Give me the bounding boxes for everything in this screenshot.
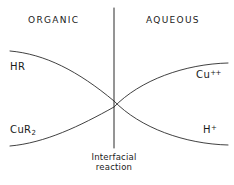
interfacial-reaction-diagram: ORGANIC AQUEOUS HR CuR2 Cu++ H+ Interfac… (0, 0, 234, 185)
curve-hplus (114, 101, 228, 145)
species-label-cu2plus: Cu++ (196, 70, 221, 81)
caption-line-2: reaction (67, 162, 161, 172)
species-label-hplus: H+ (203, 125, 216, 136)
species-hplus-superscript: + (211, 124, 216, 132)
phase-label-aqueous: AQUEOUS (146, 16, 200, 25)
species-label-cur2: CuR2 (10, 125, 36, 137)
species-hr-base: HR (10, 61, 25, 72)
curve-hr (10, 51, 114, 101)
species-cu2plus-superscript: ++ (210, 69, 221, 77)
species-cu2plus-base: Cu (196, 69, 210, 80)
species-cur2-base: CuR (10, 124, 31, 135)
caption-line-1: Interfacial (67, 152, 161, 162)
interfacial-reaction-caption: Interfacial reaction (67, 152, 161, 173)
species-cur2-subscript: 2 (31, 129, 35, 137)
species-label-hr: HR (10, 62, 25, 73)
phase-label-organic: ORGANIC (28, 16, 79, 25)
species-hplus-base: H (203, 124, 211, 135)
